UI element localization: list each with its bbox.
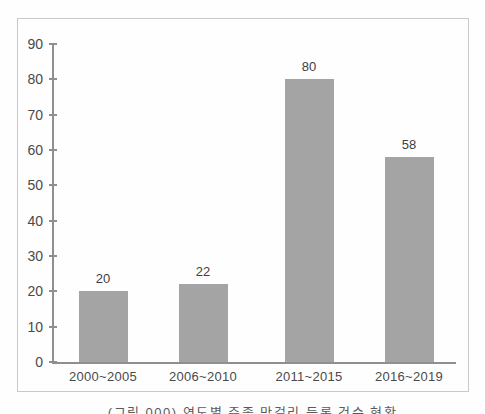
bar-2006~2010 <box>179 284 228 362</box>
y-tick-label: 80 <box>0 70 43 88</box>
y-tick-mark <box>49 290 57 292</box>
x-tick-label: 2000~2005 <box>48 368 158 385</box>
y-tick-label: 10 <box>0 318 43 336</box>
y-tick-mark <box>49 361 57 363</box>
y-tick-label: 70 <box>0 106 43 124</box>
y-axis <box>52 43 54 364</box>
plot-area: 0102030405060708090 202000~2005222006~20… <box>18 19 468 391</box>
y-tick-mark <box>49 43 57 45</box>
x-tick-label: 2006~2010 <box>148 368 258 385</box>
bar-value-label: 80 <box>279 59 339 75</box>
x-axis <box>52 362 456 364</box>
y-tick-label: 50 <box>0 176 43 194</box>
y-tick-label: 40 <box>0 212 43 230</box>
x-tick-label: 2016~2019 <box>354 368 464 385</box>
y-tick-mark <box>49 220 57 222</box>
y-tick-mark <box>49 114 57 116</box>
bar-2011~2015 <box>285 79 334 362</box>
x-tick-label: 2011~2015 <box>254 368 364 385</box>
bar-2000~2005 <box>79 291 128 362</box>
y-tick-label: 20 <box>0 282 43 300</box>
y-tick-label: 30 <box>0 247 43 265</box>
y-tick-mark <box>49 255 57 257</box>
y-tick-mark <box>49 326 57 328</box>
bar-value-label: 22 <box>173 264 233 280</box>
bar-value-label: 20 <box>73 271 133 287</box>
y-tick-label: 0 <box>0 353 43 371</box>
bar-2016~2019 <box>385 157 434 362</box>
figure-caption: (그림 000) 연도별 주종 막걸리 등록 건수 현황 <box>20 405 485 414</box>
bar-value-label: 58 <box>379 137 439 153</box>
y-tick-mark <box>49 78 57 80</box>
y-tick-mark <box>49 149 57 151</box>
y-tick-label: 90 <box>0 35 43 53</box>
page: 0102030405060708090 202000~2005222006~20… <box>0 0 485 414</box>
bar-chart-figure: 0102030405060708090 202000~2005222006~20… <box>17 18 469 392</box>
y-tick-mark <box>49 184 57 186</box>
y-tick-label: 60 <box>0 141 43 159</box>
